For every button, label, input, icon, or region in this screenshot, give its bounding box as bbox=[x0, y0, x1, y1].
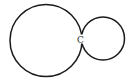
large-circle bbox=[10, 5, 82, 77]
point-label-c: C bbox=[77, 35, 84, 45]
small-circle bbox=[82, 17, 125, 60]
tangent-circles-diagram: C bbox=[0, 0, 131, 82]
